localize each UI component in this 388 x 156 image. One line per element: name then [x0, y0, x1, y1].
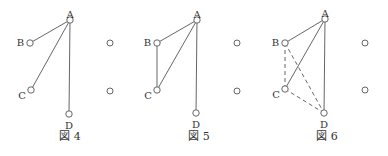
solid-edge-AC: [31, 20, 70, 90]
solid-edge-AB: [157, 20, 197, 43]
unlabeled-node: [234, 40, 240, 46]
node-label-A: A: [320, 8, 329, 19]
node-label-C: C: [144, 90, 152, 101]
figure-5: ABCD図 5: [144, 9, 240, 143]
node-D: [193, 110, 199, 116]
dashed-edge-CD: [285, 89, 324, 113]
node-C: [28, 87, 34, 93]
node-label-C: C: [272, 89, 280, 100]
figure-caption: 図 4: [59, 130, 81, 143]
node-label-D: D: [320, 119, 328, 130]
solid-edge-AD: [324, 19, 325, 113]
unlabeled-node: [107, 40, 113, 46]
node-label-C: C: [18, 90, 26, 101]
figure-caption: 図 6: [316, 130, 338, 143]
node-label-B: B: [17, 37, 24, 48]
node-B: [154, 40, 160, 46]
node-label-A: A: [192, 9, 201, 20]
node-label-B: B: [144, 37, 151, 48]
node-label-D: D: [192, 119, 200, 130]
graph-diagrams: ABCD図 4ABCD図 5ABCD図 6: [0, 0, 388, 156]
solid-edge-AC: [157, 20, 197, 90]
unlabeled-node: [107, 88, 113, 94]
figure-caption: 図 5: [188, 130, 210, 143]
unlabeled-node: [362, 87, 368, 93]
solid-edge-AB: [285, 19, 325, 43]
node-C: [154, 87, 160, 93]
solid-edge-AC: [285, 19, 325, 89]
figure-6: ABCD図 6: [272, 8, 368, 143]
node-C: [282, 86, 288, 92]
solid-edge-AD: [196, 20, 197, 113]
node-B: [27, 40, 33, 46]
node-D: [321, 110, 327, 116]
solid-edge-AD: [69, 20, 70, 114]
unlabeled-node: [362, 40, 368, 46]
node-label-A: A: [65, 9, 74, 20]
node-label-B: B: [272, 37, 279, 48]
node-B: [282, 40, 288, 46]
figure-4: ABCD図 4: [17, 9, 113, 143]
unlabeled-node: [234, 88, 240, 94]
node-D: [66, 111, 72, 117]
